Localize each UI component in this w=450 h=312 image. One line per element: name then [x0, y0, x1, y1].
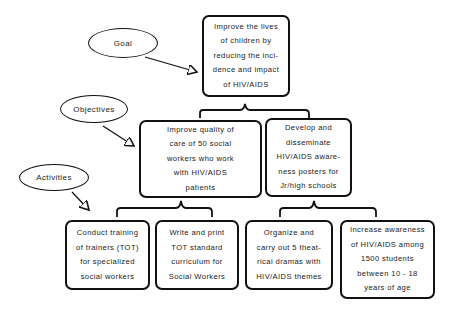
goal-box: Improve the lives of children by reducin… [202, 15, 290, 97]
objective-box-1: Improve quality of care of 50 social wor… [139, 120, 262, 198]
goal-label: Goal [88, 28, 158, 58]
objectives-arrow [103, 126, 134, 146]
brace-objective-2 [280, 201, 376, 217]
objectives-label: Objectives [60, 95, 128, 123]
goal-arrow [145, 57, 197, 72]
activity-box-3: Organize and carry out 5 theat- rical dr… [245, 220, 333, 290]
brace-goal [200, 104, 309, 118]
activity-box-4: Increase awareness of HIV/AIDS among 150… [340, 220, 435, 299]
activity-box-1: Conduct training of trainers (TOT) for s… [65, 220, 150, 290]
activities-arrow [72, 192, 89, 210]
objective-box-2: Develop and disseminate HIV/AIDS aware- … [265, 118, 352, 197]
brace-objective-1 [117, 201, 212, 217]
activity-box-2: Write and print TOT standard curriculum … [155, 220, 239, 290]
activities-label: Activities [19, 164, 89, 191]
